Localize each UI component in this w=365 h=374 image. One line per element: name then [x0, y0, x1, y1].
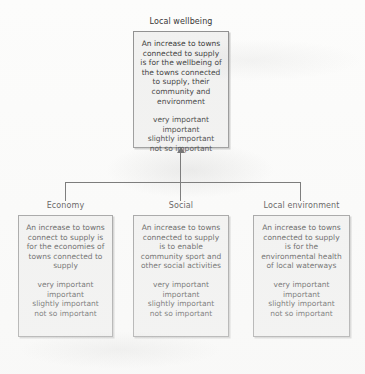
node-title-local-wellbeing: Local wellbeing — [133, 17, 229, 27]
scale-option[interactable]: not so important — [139, 309, 223, 319]
statement-local-environment: An increase to towns connected to supply… — [259, 223, 344, 271]
importance-scale-economy: very important important slightly import… — [24, 280, 107, 318]
scale-option[interactable]: very important — [24, 280, 107, 290]
connector-drop-social — [180, 182, 181, 201]
scale-option[interactable]: important — [24, 290, 107, 300]
node-title-economy: Economy — [18, 201, 113, 211]
node-title-local-environment: Local environment — [248, 201, 355, 211]
scale-option[interactable]: slightly important — [24, 299, 107, 309]
connector-drop-local-environment — [300, 182, 301, 201]
arrowhead-icon — [177, 147, 185, 153]
scale-option[interactable]: very important — [259, 280, 344, 290]
scale-option[interactable]: important — [139, 125, 223, 135]
importance-scale-local-environment: very important important slightly import… — [259, 280, 344, 318]
node-box-economy: An increase to towns connect to supply i… — [18, 215, 113, 337]
diagram-canvas: Local wellbeing An increase to towns con… — [0, 0, 365, 374]
scale-option[interactable]: very important — [139, 115, 223, 125]
statement-local-wellbeing: An increase to towns connected to supply… — [139, 39, 223, 106]
statement-social: An increase to towns connected to supply… — [139, 223, 223, 271]
node-title-social: Social — [133, 201, 229, 211]
scale-option[interactable]: not so important — [24, 309, 107, 319]
scale-option[interactable]: slightly important — [259, 299, 344, 309]
scale-option[interactable]: important — [139, 290, 223, 300]
node-box-local-wellbeing: An increase to towns connected to supply… — [133, 31, 229, 148]
statement-economy: An increase to towns connect to supply i… — [24, 223, 107, 271]
scale-option[interactable]: slightly important — [139, 134, 223, 144]
importance-scale-social: very important important slightly import… — [139, 280, 223, 318]
scale-option[interactable]: not so important — [259, 309, 344, 319]
node-box-local-environment: An increase to towns connected to supply… — [253, 215, 350, 337]
connector-drop-economy — [65, 182, 66, 201]
scale-option[interactable]: very important — [139, 280, 223, 290]
node-box-social: An increase to towns connected to supply… — [133, 215, 229, 337]
connector-horizontal-bus — [65, 182, 301, 183]
scale-option[interactable]: important — [259, 290, 344, 300]
scale-option[interactable]: slightly important — [139, 299, 223, 309]
connector-stem-to-root — [180, 152, 181, 183]
